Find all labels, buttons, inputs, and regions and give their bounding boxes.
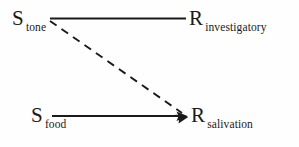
connector-tone-to-salivation: [50, 21, 182, 113]
node-r-salivation: Rsalivation: [191, 105, 251, 126]
arrowhead-tone-to-salivation: [175, 115, 188, 124]
node-r-investigatory-subscript: investigatory: [205, 21, 266, 33]
conditioning-diagram: Stone Rinvestigatory Sfood Rsalivation: [0, 0, 299, 147]
arrowhead-food-to-salivation: [177, 111, 189, 121]
node-s-tone-subscript: tone: [26, 21, 46, 33]
node-s-tone: Stone: [12, 8, 44, 29]
node-s-tone-symbol: S: [12, 6, 24, 30]
node-r-salivation-subscript: salivation: [207, 118, 253, 130]
node-s-food-symbol: S: [31, 103, 43, 127]
node-s-food-subscript: food: [45, 118, 66, 130]
node-r-investigatory: Rinvestigatory: [189, 8, 265, 29]
node-r-investigatory-symbol: R: [189, 6, 203, 30]
node-r-salivation-symbol: R: [191, 103, 205, 127]
node-s-food: Sfood: [31, 105, 64, 126]
